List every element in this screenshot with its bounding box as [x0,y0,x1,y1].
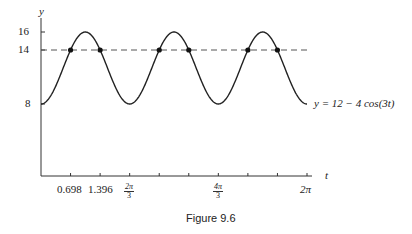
function-label: y = 12 − 4 cos(3t) [314,98,395,109]
x-tick-2pi: 2π [300,184,311,195]
chart-canvas [0,0,412,234]
y-tick-14: 14 [18,44,29,55]
x-tick-0698: 0.698 [57,184,82,195]
y-tick-8: 8 [25,98,31,109]
figure-caption: Figure 9.6 [186,212,236,224]
y-axis-label: y [39,6,44,17]
x-tick-4pi-3: 4π 3 [213,183,223,200]
cosine-curve [41,32,307,104]
x-tick-2pi-3: 2π 3 [124,183,134,200]
y-tick-16: 16 [18,26,29,37]
x-tick-1396: 1.396 [88,184,113,195]
t-axis-label: t [325,170,328,181]
